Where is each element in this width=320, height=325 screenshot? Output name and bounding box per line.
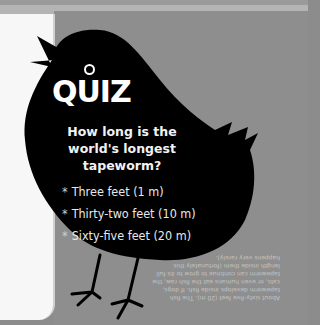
quiz-answer-upside-down: About sixty-five feet (20 m). The fish t… bbox=[150, 254, 280, 302]
quiz-option: *Sixty-five feet (20 m) bbox=[62, 225, 196, 247]
bullet-icon: * bbox=[62, 184, 68, 199]
quiz-options: *Three feet (1 m) *Thirty-two feet (10 m… bbox=[62, 181, 196, 247]
quiz-option: *Thirty-two feet (10 m) bbox=[62, 203, 196, 225]
bullet-icon: * bbox=[62, 206, 68, 221]
quiz-title: QUIZ bbox=[52, 74, 131, 109]
quiz-option: *Three feet (1 m) bbox=[62, 181, 196, 203]
quiz-question: How long is the world's longest tapeworm… bbox=[60, 123, 184, 174]
bullet-icon: * bbox=[62, 228, 68, 243]
